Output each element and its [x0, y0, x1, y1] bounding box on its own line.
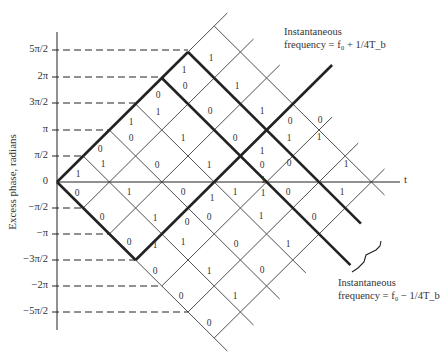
bit-label: 1 — [233, 291, 238, 301]
bit-label: 1 — [260, 106, 265, 116]
bit-label: 0 — [288, 116, 293, 126]
bit-label: 1 — [235, 81, 240, 91]
lattice-edge — [240, 52, 266, 78]
upper-note-line1: Instantaneous — [284, 25, 386, 38]
lower-note-line1: Instantaneous — [338, 276, 440, 289]
bit-label: 1 — [210, 193, 215, 203]
thick-phase-path — [57, 182, 136, 260]
lattice-edge — [109, 156, 135, 182]
bit-label: 1 — [153, 240, 158, 250]
bit-label: 1 — [181, 237, 186, 247]
bit-label: 0 — [100, 212, 105, 222]
bit-label: 1 — [182, 65, 187, 75]
lattice-edge — [83, 182, 109, 208]
bit-label: 1 — [129, 117, 134, 127]
lattice-edge — [136, 130, 162, 156]
bit-label: 0 — [207, 318, 212, 328]
lower-brace-icon — [352, 241, 381, 272]
lattice-edge — [240, 78, 266, 104]
lattice-edge — [109, 182, 135, 208]
lattice-stub — [240, 39, 253, 52]
bit-label: 1 — [287, 133, 292, 143]
bit-label: 1 — [340, 187, 345, 197]
lattice-edge — [162, 156, 188, 182]
bit-label: 1 — [286, 239, 291, 249]
lattice-edge — [214, 104, 240, 130]
lattice-stub — [240, 312, 253, 325]
bit-label: 1 — [76, 169, 81, 179]
bit-label: 0 — [207, 212, 212, 222]
y-tick-label: −π — [8, 227, 48, 238]
bit-label: 1 — [233, 187, 238, 197]
lattice-edge — [267, 78, 293, 104]
y-tick-label: π — [8, 123, 48, 134]
bit-label: 1 — [261, 175, 266, 185]
lattice-edge — [109, 208, 135, 234]
lattice-edge — [214, 208, 240, 234]
bit-label: 0 — [181, 187, 186, 197]
bit-label: 0 — [233, 133, 238, 143]
y-tick-label: π/2 — [8, 149, 48, 160]
thick-phase-path — [162, 78, 351, 265]
lattice-edge — [188, 130, 214, 156]
bit-label: 1 — [260, 146, 265, 156]
lattice-stub — [214, 13, 227, 26]
bit-label: 1 — [317, 132, 322, 142]
lattice-edge — [214, 26, 240, 52]
lattice-edge — [267, 208, 293, 234]
lattice-edge — [293, 182, 319, 208]
lattice-edge — [319, 156, 345, 182]
lattice-edge — [162, 104, 188, 130]
bit-label: 1 — [127, 187, 132, 197]
upper-note-line2: frequency = f₀ + 1/4T_b — [284, 38, 386, 51]
lattice-edge — [293, 234, 319, 260]
lattice-edge — [240, 234, 266, 260]
lattice-edge — [214, 52, 240, 78]
lattice-edge — [188, 286, 214, 312]
lattice-edge — [293, 104, 319, 130]
bit-label: 1 — [207, 266, 212, 276]
y-tick-label: −π/2 — [8, 201, 48, 212]
lattice-stub — [267, 65, 280, 78]
lattice-edge — [162, 286, 188, 312]
lattice-edge — [188, 78, 214, 104]
lower-note-line2: frequency = f₀ − 1/4T_b — [338, 289, 440, 302]
lattice-edge — [136, 260, 162, 286]
lattice-edge — [214, 312, 240, 338]
bit-label: 0 — [127, 237, 132, 247]
bit-label: 0 — [260, 160, 265, 170]
y-tick-label: 3π/2 — [8, 96, 48, 107]
lattice-stub — [214, 338, 227, 351]
bit-label: 1 — [209, 53, 214, 63]
lattice-edge — [345, 156, 371, 182]
lattice-edge — [136, 208, 162, 234]
lattice-stub — [293, 260, 306, 273]
y-tick-label: −2π — [8, 279, 48, 290]
lattice-stub — [345, 143, 358, 156]
bit-label: 0 — [286, 187, 291, 197]
bit-label: 1 — [181, 133, 186, 143]
bit-label: 0 — [208, 106, 213, 116]
lattice-edge — [319, 208, 345, 234]
lattice-stub — [371, 169, 384, 182]
lattice-edge — [188, 234, 214, 260]
bit-label: 0 — [287, 158, 292, 168]
lattice-edge — [293, 130, 319, 156]
bit-label: 1 — [156, 107, 161, 117]
y-tick-label: −5π/2 — [8, 305, 48, 316]
phase-trellis-diagram — [0, 0, 445, 362]
lattice-edge — [214, 260, 240, 286]
lattice-edge — [240, 286, 266, 312]
t-axis-label: t — [404, 173, 407, 185]
bit-label: 0 — [155, 160, 160, 170]
bit-label: 1 — [344, 159, 349, 169]
thick-phase-path — [57, 52, 188, 182]
lattice-edge — [188, 26, 214, 52]
bit-label: 1 — [153, 213, 158, 223]
phase-level-dashes — [52, 50, 188, 312]
thick-phase-path — [136, 65, 333, 260]
lattice-edge — [345, 182, 371, 208]
bit-label: 0 — [318, 115, 323, 125]
lattice-stub — [371, 182, 384, 195]
y-tick-label: −3π/2 — [8, 253, 48, 264]
